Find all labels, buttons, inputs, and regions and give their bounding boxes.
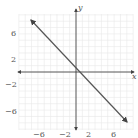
y-tick-label: 2 [11, 55, 16, 64]
x-tick-label: −2 [59, 130, 71, 138]
x-tick-label: 6 [111, 130, 116, 138]
y-tick-label: 6 [11, 29, 16, 38]
x-axis-label: x [132, 72, 137, 81]
x-tick-label: −6 [33, 130, 45, 138]
y-tick-label: −2 [5, 80, 17, 89]
y-axis-label: y [77, 3, 83, 12]
x-tick-label: 2 [86, 130, 91, 138]
y-tick-label: −6 [5, 107, 17, 116]
coordinate-plane: x y −6 −2 2 6 6 2 −2 −6 [0, 0, 138, 138]
data-line [31, 20, 127, 122]
